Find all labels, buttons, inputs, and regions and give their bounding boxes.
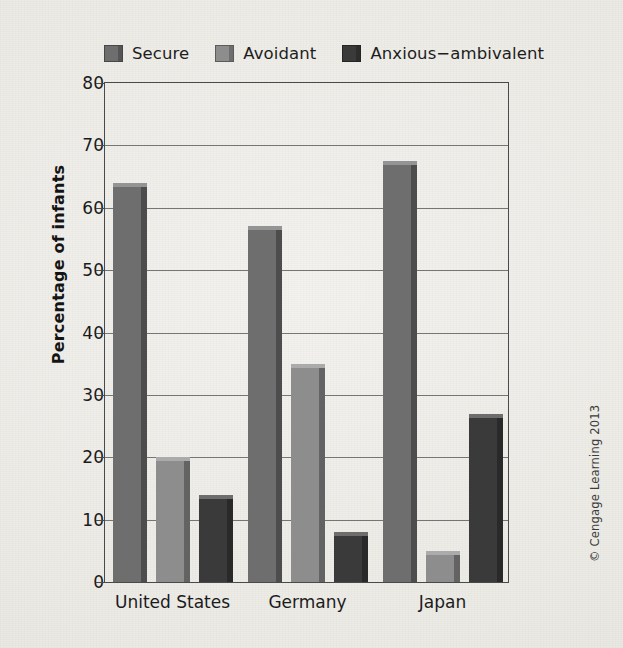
bar-top [469,414,503,418]
legend-item-avoidant[interactable]: Avoidant [215,44,316,63]
bar-face [113,183,141,582]
bar-top [426,551,460,555]
y-tick-mark-10 [96,520,105,521]
y-tick-mark-50 [96,270,105,271]
bar-top [248,226,282,230]
y-tick-label-10: 10 [44,510,104,530]
x-tick-label-germany: Germany [238,592,378,612]
bar-face [334,532,362,582]
y-tick-label-20: 20 [44,447,104,467]
y-tick-label-40: 40 [44,323,104,343]
y-tick-label-30: 30 [44,385,104,405]
bar-side [411,165,417,582]
y-tick-mark-0 [96,582,105,583]
bar-face [383,161,411,582]
y-tick-label-60: 60 [44,198,104,218]
figure-canvas: Secure Avoidant Anxious−ambivalent Perce… [0,0,623,648]
bar-face [248,226,276,582]
bar-top [383,161,417,165]
y-tick-label-0: 0 [44,572,104,592]
bar-top [291,364,325,368]
y-tick-mark-20 [96,457,105,458]
bar-side [454,555,460,582]
bar-top [156,457,190,461]
bar-side [497,418,503,582]
y-tick-mark-60 [96,208,105,209]
bar-side [141,187,147,582]
bar-face [156,457,184,582]
bar-top [199,495,233,499]
bar-face [291,364,319,582]
bar-side [184,461,190,582]
bar-united-states-avoidant[interactable] [156,457,190,582]
bar-germany-avoidant[interactable] [291,364,325,582]
bar-face [199,495,227,582]
legend-label-secure: Secure [132,44,189,63]
legend-item-anxious-ambivalent[interactable]: Anxious−ambivalent [342,44,544,63]
bar-side [276,230,282,582]
bar-japan-anxious-ambivalent[interactable] [469,414,503,582]
bar-germany-anxious-ambivalent[interactable] [334,532,368,582]
x-tick-label-united-states: United States [103,592,243,612]
legend-swatch-secure [104,45,123,62]
bar-side [319,368,325,582]
bar-side [227,499,233,582]
y-tick-label-50: 50 [44,260,104,280]
x-tick-label-japan: Japan [373,592,513,612]
bar-japan-avoidant[interactable] [426,551,460,582]
y-tick-label-80: 80 [44,73,104,93]
bars-layer [105,83,508,582]
legend-label-anxious-ambivalent: Anxious−ambivalent [370,44,544,63]
y-tick-mark-80 [96,83,105,84]
copyright-notice: © Cengage Learning 2013 [588,392,602,562]
legend-swatch-anxious-ambivalent [342,45,361,62]
y-tick-mark-70 [96,145,105,146]
bar-germany-secure[interactable] [248,226,282,582]
bar-top [113,183,147,187]
legend-label-avoidant: Avoidant [243,44,316,63]
bar-face [426,551,454,582]
legend-swatch-avoidant [215,45,234,62]
legend-item-secure[interactable]: Secure [104,44,189,63]
bar-side [362,536,368,582]
chart-legend: Secure Avoidant Anxious−ambivalent [104,40,544,66]
y-tick-mark-30 [96,395,105,396]
bar-top [334,532,368,536]
bar-japan-secure[interactable] [383,161,417,582]
bar-united-states-secure[interactable] [113,183,147,582]
bar-face [469,414,497,582]
bar-united-states-anxious-ambivalent[interactable] [199,495,233,582]
y-tick-label-70: 70 [44,135,104,155]
y-tick-mark-40 [96,333,105,334]
